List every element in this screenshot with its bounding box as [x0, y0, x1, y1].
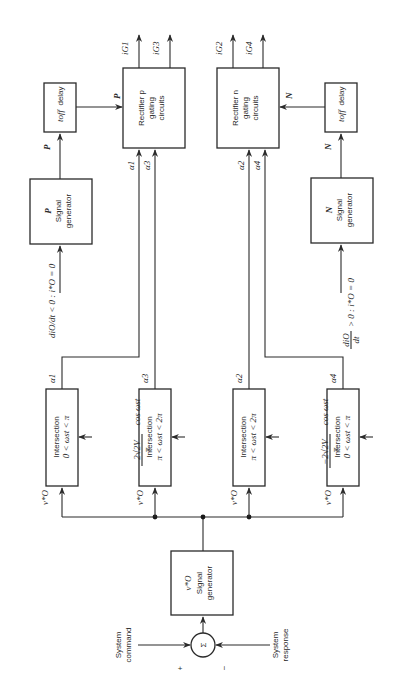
svg-text:toff: toff [336, 109, 346, 123]
svg-text:circuits: circuits [251, 96, 260, 121]
svg-text:Rectifier n: Rectifier n [231, 90, 240, 126]
svg-text:diO: diO [341, 333, 351, 347]
vo-label-1: v*O [40, 490, 50, 505]
p-label-at-delay: P [42, 144, 52, 150]
svg-text:System: System [114, 631, 123, 658]
p-toff-delay-block: toff delay [44, 83, 76, 132]
alpha3-label-top: α3 [142, 160, 152, 170]
svg-text:generator: generator [345, 193, 354, 228]
vo-label-3: v*O [229, 490, 239, 505]
ig1-label: iG1 [120, 42, 130, 56]
svg-text:generator: generator [205, 566, 214, 601]
p-condition-label: diO/dt < 0 : i*O = 0 [47, 263, 57, 338]
svg-text:toff: toff [55, 109, 65, 123]
svg-text:Signal: Signal [54, 200, 63, 222]
summing-junction: Σ [191, 633, 215, 657]
svg-text:N: N [324, 206, 334, 214]
svg-text:2√2V: 2√2V [132, 439, 142, 460]
ig4-label: iG4 [244, 41, 254, 55]
n-toff-delay-block: toff delay [325, 83, 357, 132]
control-block-diagram: Σ System command System response + − v*O… [0, 0, 407, 693]
system-command-label: System command [114, 627, 133, 662]
n-label-at-delay: N [323, 143, 333, 151]
svg-text:System: System [271, 631, 280, 658]
svg-text:> 0 : i*O = 0: > 0 : i*O = 0 [346, 278, 356, 327]
svg-text:Intersection: Intersection [239, 416, 248, 457]
svg-text:response: response [281, 628, 290, 661]
svg-text:delay: delay [337, 86, 346, 105]
intersection-block-4: Intersection 0 < ωst < π [327, 389, 359, 486]
intersection-block-3: Intersection π < ωst < 2π [233, 389, 265, 486]
alpha3-label-bottom: α3 [140, 373, 150, 383]
n-signal-generator-block: N Signal generator [311, 178, 373, 243]
rectifier-n-block: Rectifier n gating circuits [217, 68, 279, 148]
svg-text:π: π [142, 447, 152, 452]
svg-text:0 < ωst < π: 0 < ωst < π [61, 415, 71, 458]
svg-text:π < ωst < 2π: π < ωst < 2π [248, 413, 258, 461]
alpha2-label-top: α2 [236, 160, 246, 170]
svg-text:generator: generator [64, 194, 73, 229]
svg-text:π: π [330, 447, 340, 452]
system-response-label: System response [271, 628, 290, 661]
sum-symbol: Σ [199, 642, 208, 647]
bus-node [201, 515, 206, 520]
intersection-block-2: Intersection π < ωst < 2π [139, 389, 171, 486]
ig3-label: iG3 [151, 41, 161, 55]
alpha2-label-bottom: α2 [234, 373, 244, 383]
svg-text:dt: dt [351, 336, 361, 344]
plus-sign: + [178, 664, 183, 673]
svg-text:Rectifier p: Rectifier p [137, 89, 146, 126]
vo-label-2: v*O [135, 490, 145, 505]
vo-label-4: v*O [323, 490, 333, 505]
svg-text:Intersection: Intersection [52, 416, 61, 457]
svg-text:Signal: Signal [335, 199, 344, 221]
alpha4-label-bottom: α4 [328, 373, 338, 383]
vo-symbol: v*O [183, 575, 193, 590]
svg-text:π < ωst < 2π: π < ωst < 2π [154, 413, 164, 461]
svg-text:circuits: circuits [157, 96, 166, 121]
svg-text:Signal: Signal [195, 572, 204, 594]
rectifier-p-block: Rectifier p gating circuits [123, 68, 185, 148]
svg-text:command: command [124, 627, 133, 662]
svg-text:cos ωst: cos ωst [320, 398, 330, 425]
svg-text:0 < ωst < π: 0 < ωst < π [342, 415, 352, 458]
p-label-at-rectifier: P [112, 93, 122, 99]
svg-text:gating: gating [147, 97, 156, 119]
alpha4-label-top: α4 [252, 160, 262, 170]
ig2-label: iG2 [214, 41, 224, 55]
alpha1-label-top: α1 [126, 161, 136, 170]
svg-text:gating: gating [241, 97, 250, 119]
svg-text:delay: delay [56, 86, 65, 105]
n-condition-label: diO dt > 0 : i*O = 0 [341, 278, 361, 349]
reference-signal-generator-block: v*O Signal generator [171, 551, 233, 615]
svg-text:−2√2V: −2√2V [320, 438, 330, 465]
n-label-at-rectifier: N [284, 92, 294, 100]
minus-sign: − [220, 665, 229, 670]
p-signal-generator-block: P Signal generator [30, 179, 92, 244]
svg-text:P: P [43, 208, 53, 214]
svg-text:cos ωst: cos ωst [132, 398, 142, 425]
alpha1-label-bottom: α1 [47, 374, 57, 383]
intersection-block-1: Intersection 0 < ωst < π [46, 389, 78, 486]
